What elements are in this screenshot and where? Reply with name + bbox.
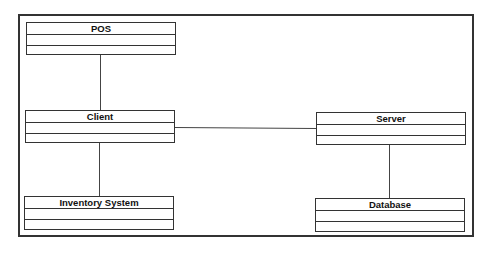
class-name: POS — [27, 23, 175, 35]
class-name: Inventory System — [25, 197, 173, 209]
attributes-section — [25, 209, 173, 220]
class-inventory-system[interactable]: Inventory System — [24, 196, 174, 230]
association-client-inventory — [99, 143, 100, 196]
association-server-database — [389, 145, 390, 198]
operations-section — [25, 220, 173, 230]
attributes-section — [27, 35, 175, 46]
operations-section — [317, 136, 465, 146]
attributes-section — [26, 123, 174, 134]
class-name: Server — [317, 113, 465, 125]
attributes-section — [317, 125, 465, 136]
class-name: Database — [316, 199, 464, 211]
class-database[interactable]: Database — [315, 198, 465, 232]
association-pos-client — [100, 55, 101, 110]
class-client[interactable]: Client — [25, 110, 175, 143]
class-pos[interactable]: POS — [26, 22, 176, 55]
attributes-section — [316, 211, 464, 222]
operations-section — [27, 46, 175, 56]
class-server[interactable]: Server — [316, 112, 466, 145]
class-name: Client — [26, 111, 174, 123]
operations-section — [26, 134, 174, 144]
operations-section — [316, 222, 464, 232]
